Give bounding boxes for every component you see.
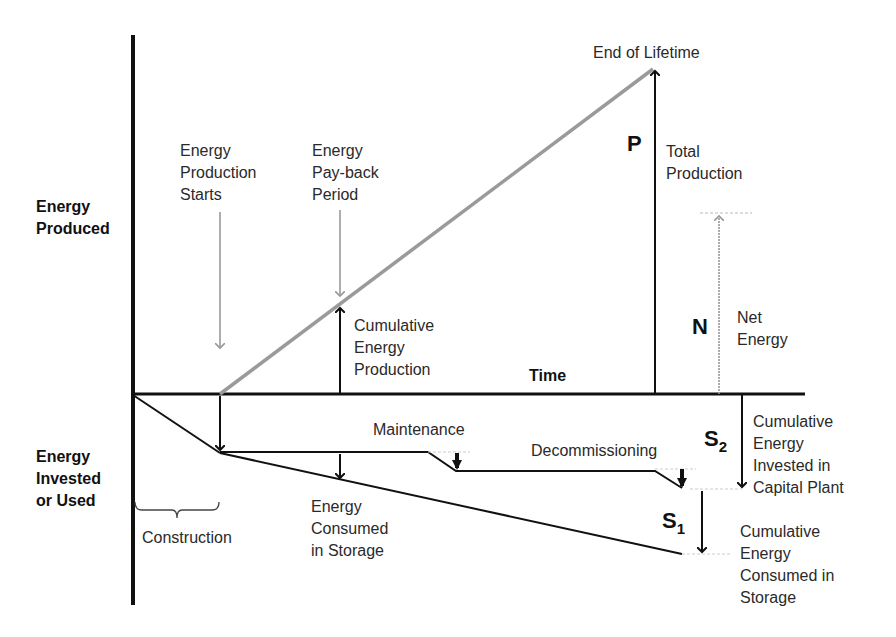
label-decommissioning: Decommissioning	[531, 440, 657, 462]
label-construction: Construction	[142, 527, 232, 549]
y-axis-label-produced: Energy Produced	[36, 196, 110, 240]
energy-lifecycle-diagram: Energy Produced Energy Invested or Used …	[0, 0, 896, 637]
label-energy-consumed-storage: Energy Consumed in Storage	[311, 496, 388, 562]
label-end-of-lifetime: End of Lifetime	[593, 42, 700, 64]
label-s2-capital-plant: Cumulative Energy Invested in Capital Pl…	[753, 411, 844, 499]
label-net-energy: Net Energy	[737, 307, 788, 351]
label-production-starts: Energy Production Starts	[180, 140, 257, 206]
label-s1-storage: Cumulative Energy Consumed in Storage	[740, 521, 834, 609]
cumulative-production-line	[220, 69, 653, 394]
symbol-s2: S2	[704, 428, 727, 458]
x-axis-label-time: Time	[529, 365, 566, 387]
symbol-s1: S1	[662, 510, 685, 540]
label-total-production: Total Production	[666, 141, 743, 185]
label-maintenance: Maintenance	[373, 419, 465, 441]
y-axis-label-invested: Energy Invested or Used	[36, 446, 101, 512]
symbol-n: N	[692, 316, 708, 338]
label-payback-period: Energy Pay-back Period	[312, 140, 379, 206]
label-cumulative-production: Cumulative Energy Production	[354, 315, 434, 381]
construction-brace	[135, 502, 219, 518]
symbol-p: P	[627, 133, 642, 155]
construction-line	[133, 395, 220, 453]
